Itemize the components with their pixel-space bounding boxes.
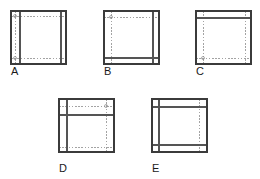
panel-b-square-outline <box>104 11 159 64</box>
panel-label-d: D <box>59 163 67 174</box>
figure-panel-d <box>59 99 114 152</box>
figure-panel-e <box>152 99 207 152</box>
figure-panel-b <box>104 11 159 64</box>
figure-panel-c <box>196 11 251 64</box>
panel-label-e: E <box>152 163 160 174</box>
panel-label-c: C <box>196 66 204 77</box>
panel-label-b: B <box>104 66 112 77</box>
figure-panel-a <box>11 11 66 64</box>
geometry-figure-panel-group <box>0 0 260 179</box>
panel-label-a: A <box>11 66 19 77</box>
panel-a-square-outline <box>11 11 66 64</box>
panel-c-square-outline <box>196 11 251 64</box>
